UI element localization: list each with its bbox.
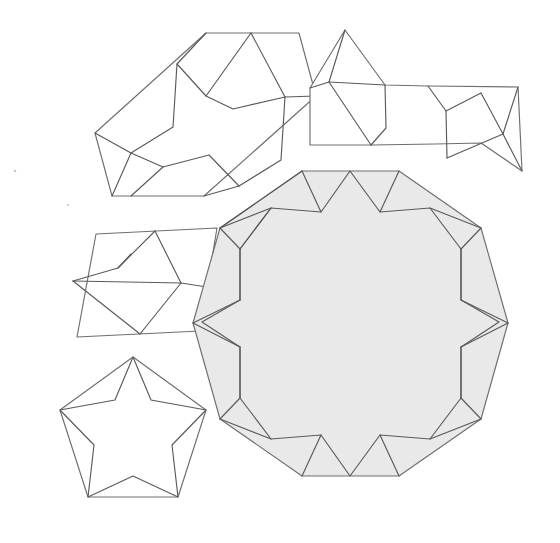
- decagon-tile: [193, 171, 508, 476]
- decagon-outline: [193, 171, 508, 476]
- scan-speck-2: [67, 204, 69, 206]
- girih-figure-root: Girih tile set Five Girih tiles with ins…: [0, 0, 560, 543]
- scan-speck-1: [14, 170, 17, 173]
- girih-tiles-diagram: Girih tile set Five Girih tiles with ins…: [0, 0, 560, 543]
